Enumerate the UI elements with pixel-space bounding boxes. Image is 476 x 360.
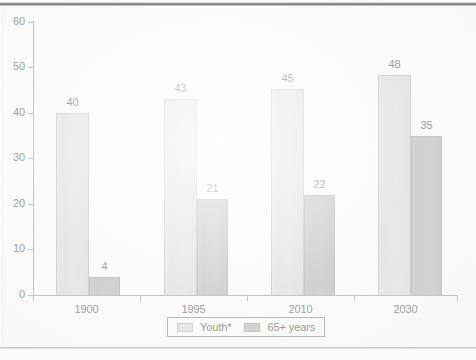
y-tick-mark bbox=[28, 67, 33, 68]
chart-legend: Youth* 65+ years bbox=[167, 317, 325, 337]
x-axis-label-1995: 1995 bbox=[140, 303, 247, 315]
bar-value-senior-1900: 4 bbox=[89, 260, 120, 272]
bar-chart-plot-area: 60 50 40 30 20 10 0 40 4 bbox=[0, 0, 476, 360]
bar-value-senior-2010: 22 bbox=[304, 178, 335, 190]
y-tick-mark bbox=[28, 249, 33, 250]
x-axis-label-2030: 2030 bbox=[354, 303, 457, 315]
bar-youth-1900[interactable] bbox=[56, 113, 89, 296]
bar-value-senior-2030: 35 bbox=[411, 119, 442, 131]
x-tick-sep-1 bbox=[140, 295, 141, 301]
y-tick-mark bbox=[28, 204, 33, 205]
bar-youth-2030[interactable] bbox=[378, 75, 411, 296]
y-tick-label: 60 bbox=[1, 15, 25, 27]
bar-value-youth-2010: 45 bbox=[271, 72, 304, 84]
legend-entry-youth[interactable]: Youth* bbox=[177, 321, 231, 333]
legend-label-youth: Youth* bbox=[200, 321, 231, 333]
y-tick-mark bbox=[28, 158, 33, 159]
page-bottom-rule-secondary bbox=[0, 348, 476, 349]
y-tick-label: 20 bbox=[1, 197, 25, 209]
legend-label-senior: 65+ years bbox=[267, 321, 315, 333]
bar-senior-1995[interactable] bbox=[197, 199, 228, 296]
bar-senior-2010[interactable] bbox=[304, 195, 335, 296]
legend-swatch-icon-senior bbox=[244, 323, 260, 332]
bar-value-youth-1995: 43 bbox=[164, 82, 197, 94]
x-tick-sep-2 bbox=[247, 295, 248, 301]
y-tick-label: 50 bbox=[1, 60, 25, 72]
bar-senior-2030[interactable] bbox=[411, 136, 442, 296]
chart-page: 60 50 40 30 20 10 0 40 4 bbox=[0, 0, 476, 360]
x-axis-label-1900: 1900 bbox=[33, 303, 140, 315]
legend-entry-senior[interactable]: 65+ years bbox=[244, 321, 315, 333]
bar-senior-1900[interactable] bbox=[89, 277, 120, 296]
bar-value-senior-1995: 21 bbox=[197, 182, 228, 194]
y-tick-label: 0 bbox=[1, 288, 25, 300]
bar-youth-2010[interactable] bbox=[271, 89, 304, 296]
y-tick-label: 40 bbox=[1, 106, 25, 118]
y-tick-mark bbox=[28, 22, 33, 23]
x-tick-sep-3 bbox=[354, 295, 355, 301]
bar-value-youth-1900: 40 bbox=[56, 96, 89, 108]
x-axis-label-2010: 2010 bbox=[247, 303, 354, 315]
x-axis-line bbox=[33, 295, 458, 296]
x-tick-end bbox=[457, 295, 458, 301]
y-axis-line bbox=[33, 21, 34, 296]
y-tick-label: 10 bbox=[1, 242, 25, 254]
x-tick-start bbox=[33, 295, 34, 301]
y-tick-label: 30 bbox=[1, 151, 25, 163]
bar-value-youth-2030: 48 bbox=[378, 58, 411, 70]
bar-youth-1995[interactable] bbox=[164, 99, 197, 296]
y-tick-mark bbox=[28, 113, 33, 114]
legend-swatch-icon-youth bbox=[177, 323, 193, 332]
